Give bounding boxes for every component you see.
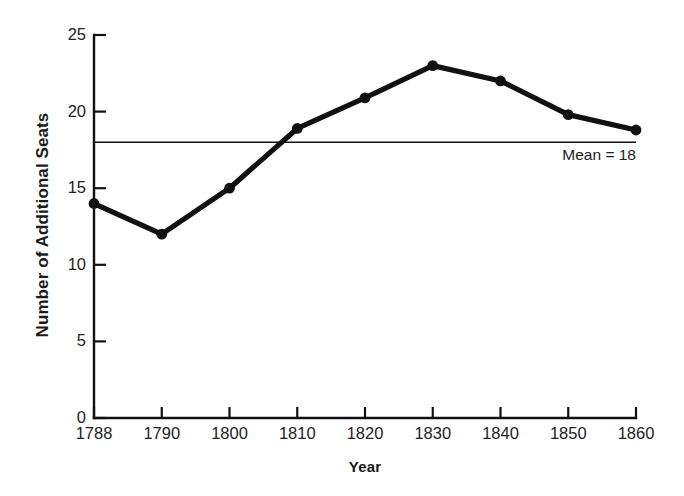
data-point-marker — [563, 109, 574, 120]
data-point-marker — [631, 125, 642, 136]
y-tick-label-text: 15 — [68, 179, 86, 196]
y-tick-label-text: 20 — [68, 103, 86, 120]
plot-area — [0, 0, 684, 496]
x-tick-label: 1810 — [262, 424, 332, 442]
x-tick-label: 1830 — [398, 424, 468, 442]
y-tick-label-text: 10 — [68, 256, 86, 273]
line-chart: 0510152025 17881790180018101820183018401… — [0, 0, 684, 496]
x-tick-label: 1850 — [533, 424, 603, 442]
y-tick-label-text: 25 — [68, 26, 86, 43]
x-tick-label: 1840 — [466, 424, 536, 442]
x-axis-title: Year — [94, 458, 636, 475]
x-tick-label: 1820 — [330, 424, 400, 442]
mean-line-label: Mean = 18 — [430, 146, 636, 164]
data-point-marker — [427, 60, 438, 71]
x-tick-label: 1800 — [195, 424, 265, 442]
data-point-marker — [224, 183, 235, 194]
data-point-marker — [156, 229, 167, 240]
data-point-marker — [292, 123, 303, 134]
data-point-marker — [89, 198, 100, 209]
y-axis-ticks — [94, 35, 106, 418]
data-point-marker — [360, 92, 371, 103]
y-axis-title: Number of Additional Seats — [33, 60, 53, 390]
x-tick-label: 1788 — [59, 424, 129, 442]
data-point-marker — [495, 76, 506, 87]
x-tick-label: 1860 — [601, 424, 671, 442]
x-axis-ticks — [94, 407, 636, 418]
y-tick-label-text: 5 — [77, 332, 86, 349]
x-tick-label: 1790 — [127, 424, 197, 442]
